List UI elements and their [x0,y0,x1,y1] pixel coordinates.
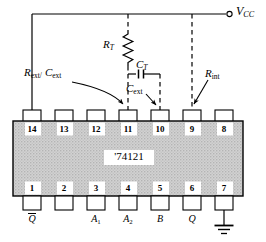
pin-number-3: 3 [87,183,105,193]
pin-number-7: 7 [215,183,233,193]
signal-label-a2: A2 [118,213,138,225]
leader-rext-cext [72,82,123,104]
cext-label: Cext [126,82,142,96]
pin-number-1: 1 [23,183,41,193]
pin-tabs-top [23,110,233,122]
signal-label-b: B [150,213,170,224]
ground-symbol [215,210,234,234]
pin-number-8: 8 [215,124,233,134]
pin-number-11: 11 [119,124,137,134]
pin-number-6: 6 [183,183,201,193]
chip-part-label: '74121 [104,150,154,162]
pin-number-10: 10 [151,124,169,134]
signal-label-qbar: Q [22,213,42,224]
pin-number-9: 9 [183,124,201,134]
circuit-schematic-canvas [0,0,266,242]
rt-label: RT [103,38,114,52]
rext-cext-label: Rext/Cext [24,66,61,80]
vcc-label: VCC [236,4,254,19]
circuit-diagram: VCC RT CT Rext/Cext Cext Rint '74121 14 … [0,0,266,242]
vcc-terminal-circle [227,11,232,16]
signal-label-a1: A1 [86,213,106,225]
pin-number-14: 14 [23,124,41,134]
pin-number-2: 2 [55,183,73,193]
pin-number-12: 12 [87,124,105,134]
leader-rint [194,80,208,104]
leader-cext [146,94,156,105]
overline-bar [28,213,35,214]
ct-label: CT [136,58,148,72]
signal-label-q: Q [182,213,202,224]
pin-number-4: 4 [119,183,137,193]
pin-number-5: 5 [151,183,169,193]
pin-number-13: 13 [55,124,73,134]
pin-tabs-bottom [23,196,233,210]
rint-label: Rint [205,67,220,81]
